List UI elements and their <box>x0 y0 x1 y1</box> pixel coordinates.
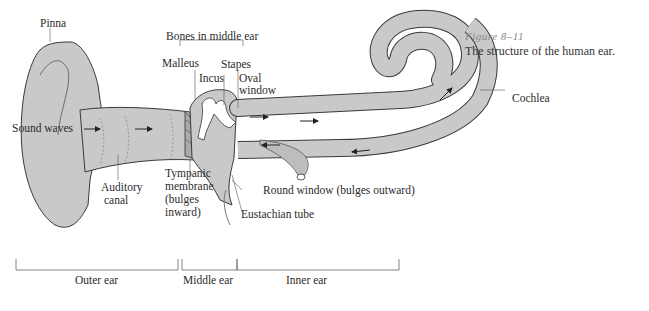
figure-number: Figure 8–11 <box>465 30 524 42</box>
label-malleus: Malleus <box>162 57 199 70</box>
label-round-window: Round window (bulges outward) <box>263 184 415 197</box>
label-tympanic-3: (bulges <box>165 193 199 206</box>
label-cochlea: Cochlea <box>512 92 550 105</box>
label-auditory-canal-2: canal <box>104 194 128 207</box>
outer-ear-bracket <box>16 259 178 270</box>
label-middle-ear: Middle ear <box>183 274 233 287</box>
label-bones-in-middle-ear: Bones in middle ear <box>166 30 258 43</box>
label-tympanic-1: Tympanic <box>165 167 211 180</box>
label-tympanic-4: inward) <box>165 206 201 219</box>
inner-ear-bracket <box>237 259 399 270</box>
label-inner-ear: Inner ear <box>286 274 327 287</box>
label-sound-waves: Sound waves <box>12 122 73 135</box>
auditory-canal-shape <box>80 107 195 172</box>
label-tympanic-2: membrane <box>165 180 214 193</box>
label-incus: Incus <box>199 72 224 85</box>
round-window-shape <box>297 174 305 180</box>
figure-caption: The structure of the human ear. <box>465 44 615 59</box>
label-eustachian-tube: Eustachian tube <box>241 208 314 221</box>
label-outer-ear: Outer ear <box>75 274 118 287</box>
middle-ear-bracket <box>182 259 237 270</box>
label-oval-window-2: window <box>239 84 276 97</box>
label-stapes: Stapes <box>221 58 251 71</box>
label-auditory-canal-1: Auditory <box>101 181 143 194</box>
label-pinna: Pinna <box>40 17 66 30</box>
